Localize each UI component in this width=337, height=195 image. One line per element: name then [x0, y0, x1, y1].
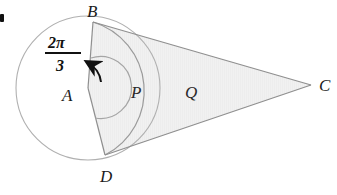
geometry-figure: 2π 3 A B C D P Q	[0, 0, 337, 195]
region-label-p: P	[130, 83, 141, 102]
angle-value-label: 2π 3	[45, 34, 81, 74]
geometry-canvas: 2π 3 A B C D P Q	[0, 0, 337, 195]
angle-numerator: 2π	[47, 34, 66, 51]
list-bullet-icon	[0, 14, 4, 22]
region-label-q: Q	[185, 83, 197, 102]
point-label-d: D	[99, 167, 113, 186]
point-label-b: B	[87, 2, 98, 21]
point-label-a: A	[61, 86, 73, 105]
point-label-c: C	[319, 76, 331, 95]
angle-denominator: 3	[55, 57, 64, 74]
